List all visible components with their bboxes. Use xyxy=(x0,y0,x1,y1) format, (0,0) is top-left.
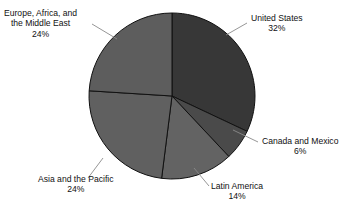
slice-value-united-states: 32% xyxy=(251,23,303,33)
slice-value-latin: 14% xyxy=(211,191,263,201)
leader-line-europe xyxy=(92,24,117,39)
slice-value-asia: 24% xyxy=(38,184,113,194)
pie-slice-europe-africa-middle-east[interactable] xyxy=(89,13,172,96)
slice-label-canada-and-mexico: Canada and Mexico 6% xyxy=(262,136,338,157)
leader-line-united-states xyxy=(226,23,247,35)
slice-label-latin-line1: Latin America xyxy=(211,181,263,191)
pie-slice-asia-and-the-pacific[interactable] xyxy=(89,91,172,179)
slice-label-canada-line1: Canada and Mexico xyxy=(262,136,338,146)
slice-label-europe-line1: Europe, Africa, and xyxy=(4,8,77,18)
slice-label-united-states-line1: United States xyxy=(251,13,303,23)
slice-label-asia-and-the-pacific: Asia and the Pacific 24% xyxy=(38,174,113,195)
slice-label-latin-america: Latin America 14% xyxy=(211,181,263,202)
slice-label-europe-line2: the Middle East xyxy=(4,18,77,28)
pie-chart-figure: Europe, Africa, and the Middle East 24% … xyxy=(0,0,362,217)
slice-value-canada: 6% xyxy=(262,146,338,156)
slice-value-europe: 24% xyxy=(4,29,77,39)
slice-label-united-states: United States 32% xyxy=(251,13,303,34)
slice-label-europe-africa-middle-east: Europe, Africa, and the Middle East 24% xyxy=(4,8,77,39)
slice-label-asia-line1: Asia and the Pacific xyxy=(38,174,113,184)
pie-slices xyxy=(89,13,255,179)
